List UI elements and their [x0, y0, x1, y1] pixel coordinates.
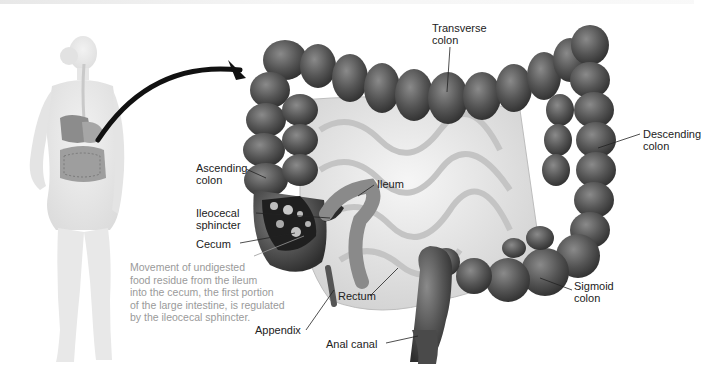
- human-figure: [30, 36, 125, 362]
- label-ascending-colon: Ascending colon: [196, 162, 247, 186]
- label-cecum: Cecum: [196, 238, 231, 250]
- label-transverse-colon: Transverse colon: [432, 22, 487, 46]
- ileocecal-note: Movement of undigested food residue from…: [130, 261, 285, 324]
- label-rectum: Rectum: [338, 290, 376, 302]
- label-anal-canal: Anal canal: [326, 338, 377, 350]
- label-descending-colon: Descending colon: [643, 128, 701, 152]
- ascending-colon: [243, 72, 318, 197]
- label-ileocecal-sphincter: Ileocecal sphincter: [196, 207, 241, 231]
- label-ileum: Ileum: [377, 178, 404, 190]
- label-sigmoid-colon: Sigmoid colon: [574, 280, 614, 304]
- intestines-icon: [60, 146, 106, 182]
- label-appendix: Appendix: [255, 324, 301, 336]
